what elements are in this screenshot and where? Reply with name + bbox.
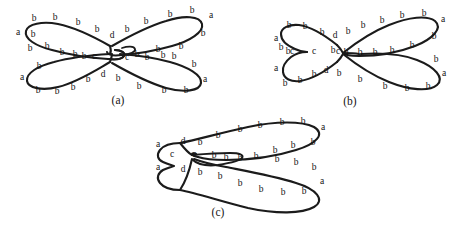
vertex-label: b: [286, 47, 291, 57]
vertex-label: b: [60, 48, 65, 58]
vertex-label: b: [400, 11, 405, 21]
vertex-label: b: [287, 21, 292, 31]
vertex-label: a: [320, 177, 324, 187]
vertex-label: b: [238, 179, 243, 189]
vertex-label: b: [172, 52, 177, 62]
vertex-label: b: [281, 188, 286, 198]
vertex-label: b: [358, 75, 363, 85]
vertex-label: b: [216, 131, 221, 141]
vertex-label: b: [125, 25, 130, 35]
vertex-label: b: [179, 42, 184, 52]
vertex-label: b: [190, 6, 195, 16]
vertex-label: d: [181, 137, 186, 147]
vertex-label: b: [380, 16, 385, 26]
vertex-label: b: [37, 62, 42, 72]
vertex-label: b: [144, 17, 149, 27]
vertex-label: b: [254, 152, 259, 162]
diagram-page: a b b b b d b b b b a b b b b b c c b b …: [0, 0, 469, 229]
vertex-label: b: [373, 48, 378, 58]
vertex-label: b: [198, 168, 203, 178]
curve-a-upper-right: [107, 17, 202, 55]
vertex-label: b: [311, 138, 316, 148]
curve-a-center-join: [110, 46, 112, 62]
vertex-label: b: [344, 48, 349, 58]
vertex-label: b: [432, 32, 437, 42]
vertex-label: a: [20, 73, 24, 83]
vertex-label: b: [137, 82, 142, 92]
vertex-label: b: [302, 187, 307, 197]
vertex-label: c: [92, 52, 96, 62]
vertex-label: b: [156, 45, 161, 55]
vertex-label: b: [291, 141, 296, 151]
vertex-label: b: [294, 158, 299, 168]
figure-c: a d b b b b b b a b b b b b b b c c a d …: [130, 115, 345, 229]
vertex-label: b: [337, 69, 342, 79]
vertex-label: b: [312, 163, 317, 173]
vertex-label: d: [324, 66, 329, 76]
figure-b: a b b b d b b b b b a b b b b b b b c c …: [255, 0, 469, 115]
vertex-label: b: [238, 125, 243, 135]
vertex-label: b: [116, 74, 121, 84]
vertex-label: b: [410, 41, 415, 51]
vertex-label: a: [321, 123, 325, 133]
vertex-label: b: [73, 50, 78, 60]
vertex-label: d: [333, 31, 338, 41]
vertex-label: b: [45, 42, 50, 52]
vertex-label: b: [53, 13, 58, 23]
vertex-label: b: [145, 53, 150, 63]
vertex-label: b: [36, 86, 41, 96]
vertex-label: b: [218, 172, 223, 182]
vertex-label: b: [168, 10, 173, 20]
vertex-label: b: [280, 118, 285, 128]
vertex-label: b: [135, 50, 140, 60]
vertex-label: b: [275, 155, 280, 165]
vertex-label: b: [71, 83, 76, 93]
figure-caption-a: (a): [112, 94, 125, 106]
vertex-label: b: [31, 30, 36, 40]
vertex-label: b: [361, 21, 366, 31]
vertex-label: c: [170, 150, 174, 160]
vertex-label: a: [274, 34, 278, 44]
vertex-label: c: [125, 53, 129, 63]
vertex-label: a: [441, 15, 445, 25]
vertex-label: b: [184, 86, 189, 96]
vertex-label: b: [32, 14, 37, 24]
vertex-label: b: [192, 60, 197, 70]
vertex-label: b: [434, 55, 439, 65]
vertex-label: a: [203, 75, 207, 85]
vertex-label: b: [258, 121, 263, 131]
vertex-label: b: [86, 75, 91, 85]
vertex-label: d: [181, 165, 186, 175]
vertex-label: b: [358, 48, 363, 58]
vertex-label: b: [201, 29, 206, 39]
vertex-label: b: [212, 151, 217, 161]
vertex-label: b: [76, 18, 81, 28]
vertex-label: b: [390, 46, 395, 56]
vertex-label: c: [312, 47, 316, 57]
vertex-label: b: [383, 82, 388, 92]
vertex-label: a: [209, 11, 213, 21]
vertex-label: c: [336, 47, 340, 57]
vertex-label: b: [279, 43, 284, 53]
vertex-label: b: [259, 185, 264, 195]
vertex-label: b: [312, 70, 317, 80]
vertex-label: b: [346, 27, 351, 37]
vertex-label: b: [238, 154, 243, 164]
vertex-label: b: [301, 117, 306, 127]
vertex-label: b: [303, 22, 308, 32]
vertex-label: b: [55, 87, 60, 97]
vertex-label: b: [162, 86, 167, 96]
vertex-label: a: [442, 69, 446, 79]
vertex-label: d: [101, 70, 106, 80]
vertex-label: b: [405, 84, 410, 94]
vertex-label: c: [192, 150, 196, 160]
vertex-label: b: [198, 138, 203, 148]
figure-caption-c: (c): [212, 206, 225, 218]
vertex-label: b: [224, 153, 229, 163]
vertex-label: b: [161, 51, 166, 61]
vertex-label: a: [16, 28, 20, 38]
figure-caption-b: (b): [343, 95, 356, 107]
vertex-label: b: [426, 82, 431, 92]
vertex-label: a: [156, 163, 160, 173]
vertex-label: b: [95, 25, 100, 35]
